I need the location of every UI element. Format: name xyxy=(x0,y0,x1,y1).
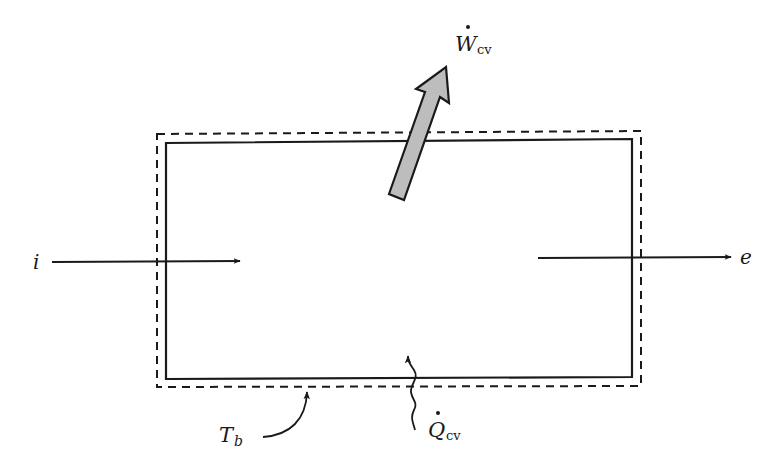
boundary-temp-pointer-arrow xyxy=(263,392,307,437)
inlet-arrow xyxy=(52,261,240,262)
svg-text:T: T xyxy=(219,423,235,447)
work-label: W cv xyxy=(455,25,492,57)
svg-text:W: W xyxy=(455,32,479,56)
boundary-temp-label: T b xyxy=(219,423,243,449)
inlet-label: i xyxy=(33,250,39,274)
svg-text:cv: cv xyxy=(446,428,461,443)
heat-label: Q cv xyxy=(428,411,461,443)
svg-text:cv: cv xyxy=(477,42,492,57)
control-volume-diagram: i e W cv Q cv T b xyxy=(0,0,780,467)
heat-transfer-arrow-icon xyxy=(408,356,416,430)
outlet-arrow xyxy=(538,257,731,258)
svg-text:b: b xyxy=(234,433,243,449)
svg-text:Q: Q xyxy=(428,418,445,442)
outlet-label: e xyxy=(740,245,752,269)
